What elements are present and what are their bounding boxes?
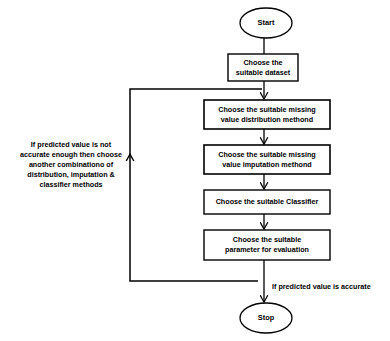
node-choose-distribution-shape [204, 100, 330, 129]
node-start-shape [240, 8, 292, 38]
node-choose-classifier-shape [204, 190, 330, 214]
node-choose-dataset-shape [228, 54, 298, 81]
node-stop-shape [240, 303, 292, 333]
node-choose-imputation-shape [204, 145, 330, 174]
flowchart-canvas: Start Choose the suitable dataset Choose… [0, 0, 390, 341]
annotation-feedback-note: If predicted value is not accurate enoug… [6, 140, 136, 190]
node-choose-parameter-shape [204, 230, 330, 260]
annotation-accurate-note: If predicted value is accurate [272, 282, 388, 291]
